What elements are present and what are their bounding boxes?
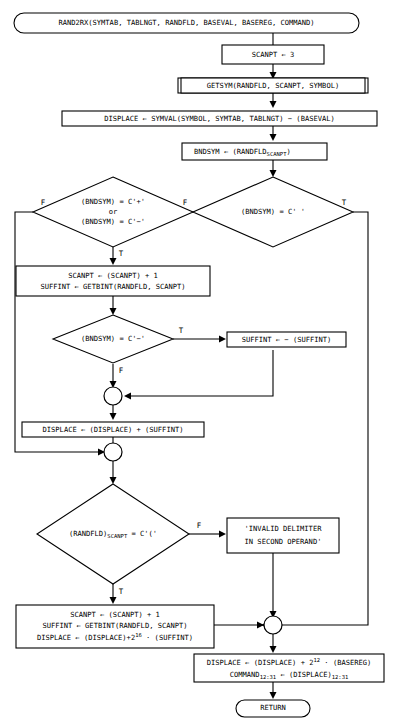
node-final-displace[interactable]: DISPLACE ← (DISPLACE) + 212 · (BASEREG) … — [194, 654, 384, 682]
node-suffint-negate[interactable]: SUFFINT ← − (SUFFINT) — [227, 332, 346, 347]
scanpt-init-label: SCANPT ← 3 — [252, 50, 295, 59]
displace-add-suffint-label: DISPLACE ← (DISPLACE) + (SUFFINT) — [43, 425, 184, 434]
node-displace-add-suffint[interactable]: DISPLACE ← (DISPLACE) + (SUFFINT) — [22, 422, 204, 437]
node-start[interactable]: RAND2RX(SYMTAB, TABLNGT, RANDFLD, BASEVA… — [14, 13, 359, 33]
getsym-label: GETSYM(RANDFLD, SCANPT, SYMBOL) — [207, 81, 339, 90]
final-displace-line2: COMMAND12:31 ← (DISPLACE)12:31 — [230, 670, 349, 680]
return-label: RETURN — [260, 703, 286, 712]
node-displace-symval[interactable]: DISPLACE ← SYMVAL(SYMBOL, SYMTAB, TABLNG… — [62, 111, 377, 126]
edge-label-minus-false: F — [119, 366, 124, 375]
flowchart-canvas: RAND2RX(SYMTAB, TABLNGT, RANDFLD, BASEVA… — [0, 0, 394, 728]
node-decision-minus[interactable]: (BNDSYM) = C'−' — [53, 315, 173, 363]
final-displace-line1: DISPLACE ← (DISPLACE) + 212 · (BASEREG) — [207, 657, 372, 667]
edge-label-blank-false: F — [183, 198, 188, 207]
scanpt-displace-line2: SUFFINT ← GETBINT(RANDFLD, SCANPT) — [42, 621, 187, 630]
node-return[interactable]: RETURN — [236, 700, 310, 717]
node-connector-3[interactable] — [264, 616, 282, 634]
error-msg-line1: 'INVALID DELIMITER — [245, 524, 323, 533]
scanpt-suffint-line1: SCANPT ← (SCANPT) + 1 — [68, 271, 158, 280]
edge-label-plusminus-false: F — [41, 198, 46, 207]
start-label: RAND2RX(SYMTAB, TABLNGT, RANDFLD, BASEVA… — [58, 18, 314, 27]
node-connector-1[interactable] — [104, 387, 122, 405]
node-decision-plusminus[interactable]: (BNDSYM) = C'+' or (BNDSYM) = C'−' — [33, 177, 193, 247]
node-scanpt-displace[interactable]: SCANPT ← (SCANPT) + 1 SUFFINT ← GETBINT(… — [16, 605, 214, 648]
node-error-msg[interactable]: 'INVALID DELIMITER IN SECOND OPERAND' — [227, 518, 339, 553]
node-scanpt-init[interactable]: SCANPT ← 3 — [222, 45, 324, 64]
node-scanpt-suffint[interactable]: SCANPT ← (SCANPT) + 1 SUFFINT ← GETBINT(… — [16, 266, 210, 296]
error-msg-line2: IN SECOND OPERAND' — [245, 537, 322, 546]
node-getsym[interactable]: GETSYM(RANDFLD, SCANPT, SYMBOL) — [178, 78, 368, 93]
decision-plusminus-line2: or — [109, 207, 118, 216]
suffint-negate-label: SUFFINT ← − (SUFFINT) — [242, 335, 332, 344]
decision-blank-label: (BNDSYM) = C' ' — [241, 207, 305, 216]
node-bndsym-assign[interactable]: BNDSYM ← (RANDFLDSCANPT) — [182, 143, 327, 160]
scanpt-suffint-line2: SUFFINT ← GETBINT(RANDFLD, SCANPT) — [40, 282, 185, 291]
edge-label-paren-true: T — [119, 587, 124, 596]
scanpt-displace-line1: SCANPT ← (SCANPT) + 1 — [70, 610, 160, 619]
edge-label-blank-true: T — [342, 198, 347, 207]
decision-plusminus-line1: (BNDSYM) = C'+' — [81, 197, 145, 206]
displace-symval-label: DISPLACE ← SYMVAL(SYMBOL, SYMTAB, TABLNG… — [104, 114, 335, 123]
edges — [15, 33, 368, 699]
edge-label-plusminus-true: T — [119, 249, 124, 258]
node-decision-paren[interactable]: (RANDFLD)SCANPT = C'(' — [37, 484, 189, 584]
decision-plusminus-line3: (BNDSYM) = C'−' — [81, 217, 145, 226]
node-connector-2[interactable] — [104, 443, 122, 461]
edge-label-paren-false: F — [197, 521, 202, 530]
node-decision-blank[interactable]: (BNDSYM) = C' ' — [193, 177, 353, 247]
scanpt-displace-line3: DISPLACE ← (DISPLACE)+216 · (SUFFINT) — [37, 632, 193, 642]
edge-label-minus-true: T — [179, 326, 184, 335]
decision-minus-label: (BNDSYM) = C'−' — [81, 334, 145, 343]
